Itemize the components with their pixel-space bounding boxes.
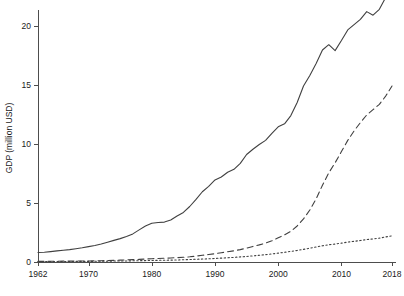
y-axis: 05101520 GDP (million USD) (4, 10, 39, 267)
y-tick-label: 20 (22, 21, 32, 31)
x-tick-label: 2000 (269, 269, 288, 279)
series-solid (38, 0, 392, 253)
x-axis: 1962197019801990200020102018 (29, 262, 402, 279)
x-tick-label: 1962 (29, 269, 48, 279)
y-tick-label: 15 (22, 80, 32, 90)
chart-canvas: 05101520 GDP (million USD) 1962197019801… (0, 0, 404, 296)
x-tick-label: 1990 (206, 269, 225, 279)
y-tick-label: 5 (26, 198, 31, 208)
x-tick-group: 1962197019801990200020102018 (29, 262, 402, 279)
x-tick-label: 2010 (332, 269, 351, 279)
x-tick-label: 1970 (79, 269, 98, 279)
gdp-line-chart: 05101520 GDP (million USD) 1962197019801… (0, 0, 404, 296)
x-tick-label: 1980 (142, 269, 161, 279)
series-dotted (38, 236, 392, 262)
y-tick-group: 05101520 (22, 21, 38, 267)
y-axis-title: GDP (million USD) (4, 102, 14, 173)
x-tick-label: 2018 (383, 269, 402, 279)
series-dashed (38, 86, 392, 261)
y-tick-label: 10 (22, 139, 32, 149)
y-tick-label: 0 (26, 257, 31, 267)
series-group (38, 0, 392, 262)
